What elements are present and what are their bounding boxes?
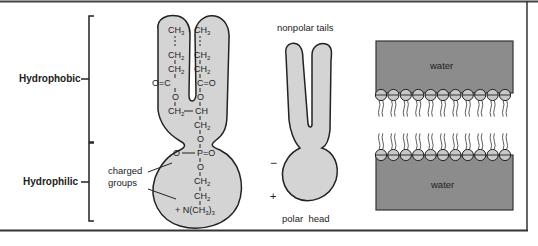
svg-text:O: O (173, 148, 180, 158)
phospholipid-diagram: CH3 CH2 CH2 O=C O CH2 CH3 CH2 CH2 C=O O … (0, 0, 538, 246)
lipid-head (450, 133, 461, 160)
lipid-head (400, 89, 411, 116)
lipid-head (499, 133, 510, 160)
hydrophobic-bracket (81, 16, 94, 142)
bottom-leaflet (375, 133, 510, 160)
lipid-head (375, 133, 386, 160)
lipid-head (413, 89, 424, 116)
lipid-head (462, 89, 473, 116)
svg-text:O: O (197, 162, 204, 172)
lipid-head (437, 133, 448, 160)
water-top-label: water (430, 60, 453, 71)
lipid-head (388, 133, 399, 160)
svg-text:+ N(CH3)3: + N(CH3)3 (175, 205, 216, 216)
lipid-head (425, 133, 436, 160)
hydrophilic-bracket (81, 143, 94, 221)
lipid-head (425, 89, 436, 116)
lipid-head (487, 89, 498, 116)
lipid-head (413, 133, 424, 160)
nonpolar-tails-label: nonpolar tails (277, 22, 334, 33)
svg-text:O: O (197, 134, 204, 144)
lipid-head (475, 133, 486, 160)
lipid-head (400, 133, 411, 160)
lipid-head (462, 133, 473, 160)
svg-text:O: O (172, 92, 179, 102)
lipid-head (388, 89, 399, 116)
diagram-frame: CH3 CH2 CH2 O=C O CH2 CH3 CH2 CH2 C=O O … (0, 0, 538, 246)
svg-text:C=O: C=O (197, 78, 216, 88)
lipid-head (450, 89, 461, 116)
lipid-head (487, 133, 498, 160)
top-leaflet (375, 89, 510, 116)
lipid-head (437, 89, 448, 116)
lipid-head (499, 89, 510, 116)
charged-groups-label-2: groups (108, 177, 137, 188)
water-bottom-label: water (431, 179, 454, 190)
lipid-head (475, 89, 486, 116)
charged-groups-label-1: charged (108, 165, 142, 176)
svg-text:O=C: O=C (152, 78, 171, 88)
plus-sign: + (270, 190, 276, 202)
hydrophobic-label: Hydrophobic (19, 73, 81, 84)
minus-sign: − (270, 156, 277, 170)
simplified-phospholipid (282, 43, 337, 200)
lipid-head (375, 89, 386, 116)
svg-text:CH: CH (195, 106, 208, 116)
svg-text:O: O (197, 92, 204, 102)
hydrophilic-label: Hydrophilic (23, 176, 78, 187)
polar-head-label: polar head (282, 213, 330, 224)
svg-text:=O: =O (203, 148, 215, 158)
